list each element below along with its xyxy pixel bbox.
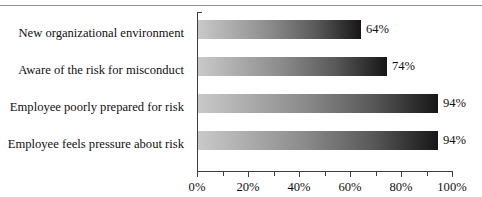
category-label: Employee poorly prepared for risk (0, 100, 184, 114)
x-tick-minor (274, 172, 275, 176)
bar-value-label: 94% (443, 96, 466, 111)
x-tick-major (248, 172, 249, 177)
x-tick-minor (376, 172, 377, 176)
x-tick-minor (325, 172, 326, 176)
y-axis-top-tick (197, 12, 202, 13)
x-tick-major (452, 172, 453, 177)
bar (198, 57, 387, 76)
category-label: New organizational environment (0, 26, 184, 40)
top-divider-rule (0, 5, 482, 6)
bar (198, 20, 361, 39)
category-label: Aware of the risk for misconduct (0, 63, 184, 77)
x-tick-major (197, 172, 198, 177)
x-tick-label: 80% (389, 180, 412, 195)
x-tick-minor (223, 172, 224, 176)
x-tick-minor (427, 172, 428, 176)
bar-value-label: 64% (366, 22, 389, 37)
bar-chart-figure: New organizational environment Aware of … (0, 0, 482, 197)
x-tick-label: 100% (437, 180, 466, 195)
bar (198, 131, 438, 150)
plot-area: 64% 74% 94% 94% 0% 20% 40% 60% 80% 1 (197, 12, 453, 172)
x-tick-major (299, 172, 300, 177)
category-label: Employee feels pressure about risk (0, 137, 184, 151)
x-tick-major (401, 172, 402, 177)
x-tick-major (350, 172, 351, 177)
bar-value-label: 74% (392, 59, 415, 74)
x-tick-label: 20% (236, 180, 259, 195)
x-tick-label: 60% (338, 180, 361, 195)
x-tick-label: 0% (189, 180, 206, 195)
bar (198, 94, 438, 113)
bar-value-label: 94% (443, 133, 466, 148)
x-tick-label: 40% (287, 180, 310, 195)
category-axis-labels: New organizational environment Aware of … (0, 12, 190, 172)
